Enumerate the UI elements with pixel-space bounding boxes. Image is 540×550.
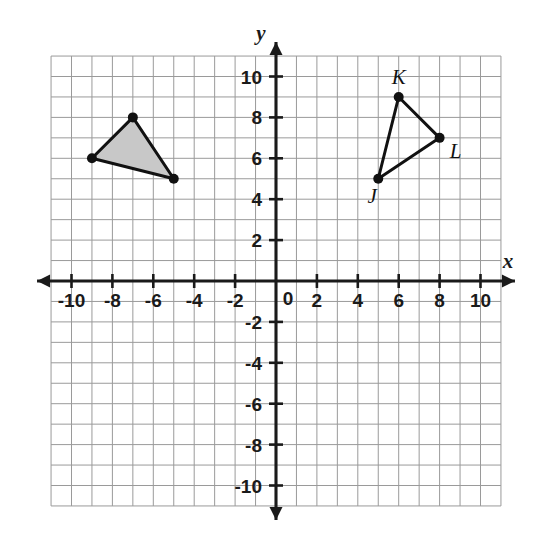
y-axis-tick-label: 10	[241, 67, 262, 88]
y-axis-tick-label: 4	[251, 189, 262, 210]
y-axis-tick-label: 2	[251, 230, 262, 251]
x-axis-tick-label: 6	[393, 290, 404, 311]
figure-background	[0, 0, 540, 550]
x-axis-tick-label: 2	[312, 290, 323, 311]
x-axis-tick-label: 4	[353, 290, 364, 311]
origin-label: 0	[283, 288, 294, 309]
y-axis-tick-label: 8	[251, 107, 262, 128]
y-axis-tick-label: -10	[235, 476, 262, 497]
x-axis-tick-label: -10	[58, 290, 85, 311]
x-axis-tick-label: 8	[434, 290, 445, 311]
vertex-point	[87, 153, 97, 163]
y-axis-tick-label: -6	[245, 394, 262, 415]
x-axis-tick-label: -8	[104, 290, 121, 311]
coordinate-plane-figure: -10-8-6-4-2246810108642-2-4-6-8-10 x y 0…	[0, 0, 540, 550]
x-axis-tick-label: -2	[227, 290, 244, 311]
y-axis-tick-label: -4	[245, 353, 262, 374]
vertex-point	[373, 174, 383, 184]
x-axis-label: x	[502, 249, 514, 273]
y-axis-tick-label: 6	[251, 148, 262, 169]
x-axis-tick-label: 10	[470, 290, 491, 311]
y-axis-tick-label: -8	[245, 435, 262, 456]
y-axis-tick-label: -2	[245, 312, 262, 333]
vertex-point	[169, 174, 179, 184]
vertex-point	[394, 92, 404, 102]
vertex-point	[435, 133, 445, 143]
vertex-label-k: K	[391, 65, 407, 89]
vertex-point	[128, 112, 138, 122]
coordinate-plane-svg: -10-8-6-4-2246810108642-2-4-6-8-10 x y 0…	[0, 0, 540, 550]
x-axis-tick-label: -6	[145, 290, 162, 311]
vertex-label-l: L	[449, 139, 462, 163]
x-axis-tick-label: -4	[186, 290, 203, 311]
